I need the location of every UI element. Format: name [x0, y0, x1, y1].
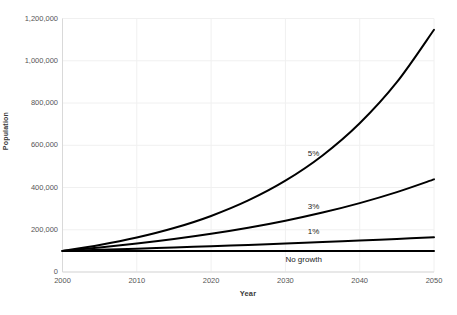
series-line-5-	[63, 30, 435, 251]
series-label-5-: 5%	[308, 149, 320, 158]
x-axis-title: Year	[62, 289, 434, 298]
plot-area	[0, 0, 457, 315]
series-label-no-growth: No growth	[285, 255, 321, 264]
population-growth-chart: Population 0200,000400,000600,000800,000…	[0, 0, 457, 315]
series-label-1-: 1%	[308, 227, 320, 236]
series-line-1-	[63, 237, 435, 251]
series-label-3-: 3%	[308, 202, 320, 211]
